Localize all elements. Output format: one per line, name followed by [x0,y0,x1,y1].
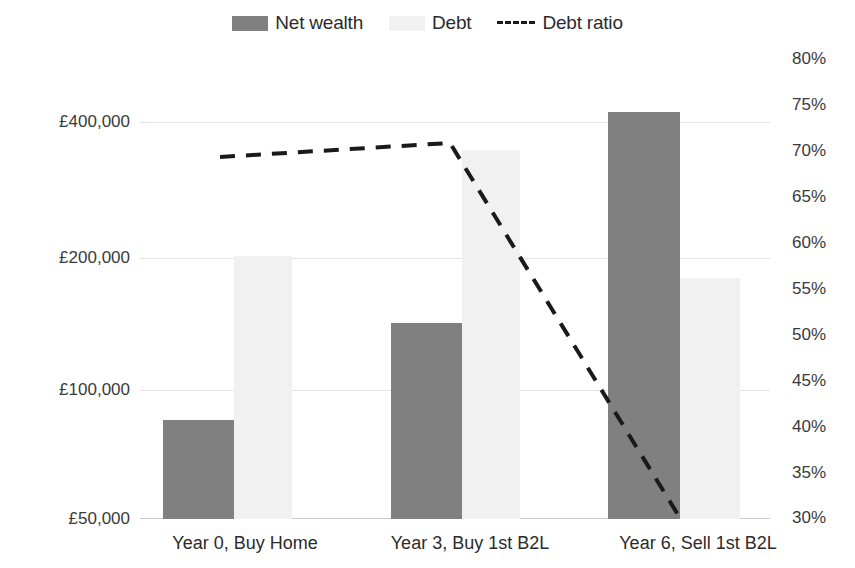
y-axis-left-tick: £400,000 [18,112,130,132]
bar-net-wealth [608,112,680,519]
y-axis-right-tick: 65% [792,187,852,207]
legend-item-net-wealth: Net wealth [232,12,363,34]
bar-debt [234,256,292,519]
y-axis-right-tick: 55% [792,279,852,299]
legend-label-debt-ratio: Debt ratio [542,12,622,34]
bar-net-wealth [391,323,462,519]
legend-item-debt: Debt [389,12,471,34]
bar-debt [462,150,520,519]
legend-swatch-net-wealth [232,16,268,31]
x-axis-category-label: Year 0, Buy Home [140,533,350,554]
y-axis-right-tick: 75% [792,95,852,115]
plot-area [140,59,770,519]
x-axis-category-label: Year 6, Sell 1st B2L [588,533,808,554]
y-axis-right-tick: 80% [792,49,852,69]
y-axis-left-tick: £200,000 [18,248,130,268]
bar-debt [680,278,740,519]
bar-net-wealth [163,420,234,519]
legend-label-net-wealth: Net wealth [275,12,363,34]
y-axis-right-tick: 50% [792,325,852,345]
y-axis-right-tick: 40% [792,417,852,437]
y-axis-right-tick: 70% [792,141,852,161]
legend-item-debt-ratio: Debt ratio [497,12,622,34]
y-axis-right-tick: 30% [792,508,852,528]
y-axis-right-tick: 60% [792,233,852,253]
y-axis-left-tick: £50,000 [18,509,130,529]
x-axis-category-label: Year 3, Buy 1st B2L [360,533,580,554]
legend-label-debt: Debt [432,12,471,34]
legend-swatch-debt [389,16,425,31]
chart-container: Net wealth Debt Debt ratio £400,000 £200… [0,0,855,568]
y-axis-left-tick: £100,000 [18,380,130,400]
chart-legend: Net wealth Debt Debt ratio [0,6,855,40]
y-axis-right-tick: 35% [792,463,852,483]
y-axis-right-tick: 45% [792,371,852,391]
